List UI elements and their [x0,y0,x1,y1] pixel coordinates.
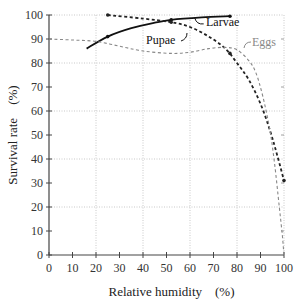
x-tick-label: 60 [184,261,196,275]
pupae-point [282,179,286,183]
grid [49,15,284,255]
x-tick-label: 70 [208,261,220,275]
pupae-point [106,13,110,17]
y-tick-label: 70 [31,80,43,94]
survival-rate-chart: 0102030405060708090100 01020304050607080… [0,0,296,302]
y-tick-label: 40 [31,152,43,166]
y-ticks: 0102030405060708090100 [25,8,52,262]
y-tick-label: 0 [37,248,43,262]
y-tick-label: 60 [31,104,43,118]
axes [49,15,284,255]
eggs-label: Eggs [252,35,276,49]
x-axis-title: Relative humidity (%) [108,284,234,299]
x-tick-label: 20 [90,261,102,275]
eggs-label-leader [244,42,251,48]
x-tick-label: 80 [231,261,243,275]
y-tick-label: 20 [31,200,43,214]
y-tick-label: 90 [31,32,43,46]
y-tick-label: 80 [31,56,43,70]
eggs-line [49,39,284,255]
x-tick-label: 90 [255,261,267,275]
y-tick-label: 50 [31,128,43,142]
x-tick-label: 10 [67,261,79,275]
pupae-label-leader [181,33,187,41]
y-tick-label: 30 [31,176,43,190]
larvae-point [106,35,110,39]
y-axis-title: Survival rate (%) [5,85,20,184]
x-tick-label: 40 [137,261,149,275]
larvae-label-leader [195,18,204,24]
pupae-label: Pupae [146,33,175,47]
y-tick-label: 10 [31,224,43,238]
larvae-label: Larvae [206,15,239,29]
x-tick-label: 100 [275,261,293,275]
x-tick-label: 50 [161,261,173,275]
x-tick-label: 0 [46,261,52,275]
series-group [49,13,286,255]
pupae-point [169,20,173,24]
pupae-point [228,52,232,56]
y-tick-label: 100 [25,8,43,22]
x-tick-label: 30 [114,261,126,275]
